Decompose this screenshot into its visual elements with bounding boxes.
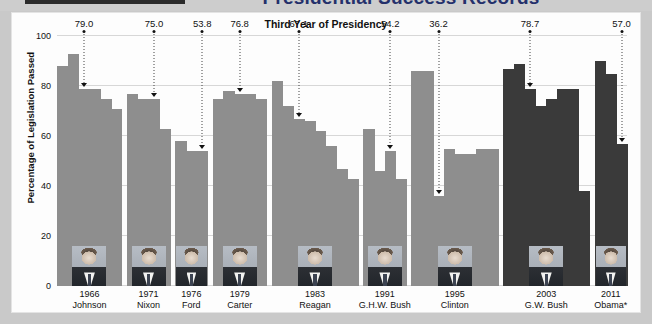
bar <box>422 71 433 286</box>
bar <box>579 191 590 286</box>
bar-group <box>127 36 170 286</box>
callout-arrow-icon <box>237 88 243 92</box>
president-photo <box>132 246 166 286</box>
callout-dot <box>529 30 532 33</box>
callout-arrow-icon <box>81 83 87 87</box>
callout-value-label: 67.1 <box>289 18 308 29</box>
y-axis-tick-label: 100 <box>21 31 51 41</box>
bar <box>283 106 294 286</box>
callout-arrow-icon <box>619 138 625 142</box>
callout-leader-line <box>153 34 154 93</box>
portrait-tie <box>238 274 241 286</box>
x-axis-president-name: Obama* <box>583 300 639 311</box>
chart-screenshot: Presidential Success Records Third Year … <box>0 0 652 324</box>
portrait-tie <box>609 274 612 286</box>
callout-arrow-icon <box>436 190 442 194</box>
bar-group <box>411 36 498 286</box>
callout-value-label: 57.0 <box>612 18 631 29</box>
callout-value-label: 75.0 <box>145 18 164 29</box>
callout-arrow-icon <box>296 113 302 117</box>
y-axis-tick-label: 40 <box>21 181 51 191</box>
page-title: Presidential Success Records <box>186 0 616 9</box>
president-photo <box>438 246 472 286</box>
y-axis-tick-label: 60 <box>21 131 51 141</box>
callout-dot <box>152 30 155 33</box>
president-photo <box>596 246 626 286</box>
president-photo <box>368 246 402 286</box>
x-axis-year: 2011 <box>583 289 639 300</box>
portrait-tie <box>147 274 150 286</box>
president-photo <box>72 246 106 286</box>
portrait-tie <box>453 274 456 286</box>
callout-arrow-icon <box>527 83 533 87</box>
callout-value-label: 53.8 <box>193 18 212 29</box>
callout-dot <box>83 30 86 33</box>
callout-leader-line <box>530 34 531 83</box>
callout-leader-line <box>202 34 203 145</box>
bar <box>347 179 358 287</box>
president-photo <box>176 246 206 286</box>
portrait-tie <box>190 274 193 286</box>
bar <box>111 109 122 287</box>
chart-card: Third Year of Presidency Percentage of L… <box>12 13 640 312</box>
callout-dot <box>389 30 392 33</box>
callout-value-label: 79.0 <box>75 18 94 29</box>
chart-subtitle: Third Year of Presidency <box>12 18 640 30</box>
bar <box>337 169 348 287</box>
y-axis-tick-label: 80 <box>21 81 51 91</box>
callout-value-label: 78.7 <box>521 18 540 29</box>
portrait-tie <box>545 274 548 286</box>
portrait-tie <box>383 274 386 286</box>
bar <box>568 89 579 287</box>
title-bar: Presidential Success Records <box>0 0 652 11</box>
bar-group <box>175 36 207 286</box>
callout-dot <box>297 30 300 33</box>
bar-group <box>503 36 590 286</box>
callout-leader-line <box>239 34 240 88</box>
president-photo <box>298 246 332 286</box>
bar <box>272 81 283 286</box>
callout-dot <box>201 30 204 33</box>
bar <box>514 64 525 287</box>
bar <box>256 99 267 287</box>
callout-dot <box>238 30 241 33</box>
president-photo <box>223 246 257 286</box>
bar <box>476 149 487 287</box>
callout-leader-line <box>298 34 299 113</box>
bar-group <box>595 36 627 286</box>
callout-value-label: 54.2 <box>381 18 400 29</box>
bar-group <box>363 36 406 286</box>
callout-value-label: 76.8 <box>230 18 249 29</box>
callout-leader-line <box>438 34 439 190</box>
bar <box>503 69 514 287</box>
president-photo <box>529 246 563 286</box>
y-axis-tick-label: 20 <box>21 231 51 241</box>
callout-value-label: 36.2 <box>429 18 448 29</box>
x-axis-labels: 1966Johnson1971Nixon1976Ford1979Carter19… <box>57 289 627 313</box>
plot-area: 02040608010079.075.053.876.867.154.236.2… <box>57 36 627 286</box>
portrait-tie <box>88 274 91 286</box>
callout-leader-line <box>390 34 391 145</box>
portrait-tie <box>313 274 316 286</box>
bar <box>411 71 422 286</box>
bar-group <box>272 36 359 286</box>
x-axis-group-label: 2011Obama* <box>583 289 639 311</box>
callout-leader-line <box>621 34 622 138</box>
callout-arrow-icon <box>199 145 205 149</box>
bar <box>57 66 68 286</box>
callout-dot <box>437 30 440 33</box>
callout-arrow-icon <box>387 145 393 149</box>
callout-arrow-icon <box>151 93 157 97</box>
callout-dot <box>620 30 623 33</box>
bar <box>487 149 498 287</box>
callout-leader-line <box>84 34 85 83</box>
title-rule <box>25 0 185 4</box>
bar-group <box>57 36 122 286</box>
